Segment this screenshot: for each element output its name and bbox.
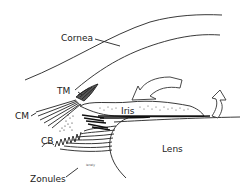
cornea-outer-line	[25, 15, 222, 80]
scribble-mark: lerwly	[86, 163, 95, 167]
iris-posterior-line	[100, 117, 150, 118]
eye-anatomy-diagram: Cornea TM CM CB	[0, 0, 246, 186]
aqueous-flow-arrow-large	[132, 77, 182, 100]
iris-label: Iris	[121, 106, 135, 116]
cm-leader	[31, 113, 36, 116]
aqueous-flow-arrow-pupil	[212, 90, 226, 118]
zonules-label: Zonules	[30, 174, 66, 184]
ciliary-muscle-fibers	[36, 100, 81, 128]
lens-label: Lens	[162, 144, 183, 154]
iris	[80, 101, 204, 116]
zonules-leader	[66, 168, 78, 177]
cm-label: CM	[15, 111, 29, 121]
cb-label: CB	[41, 136, 53, 146]
cornea-label: Cornea	[61, 33, 93, 43]
cornea-inner-line	[75, 35, 220, 90]
ciliary-processes	[55, 132, 81, 147]
lens-equator	[110, 118, 128, 178]
tm-label: TM	[56, 86, 70, 96]
